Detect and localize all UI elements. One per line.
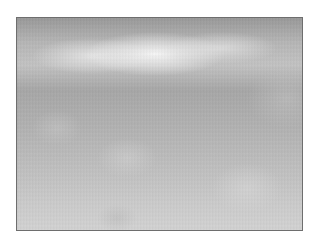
- grayscale-image: [16, 17, 303, 231]
- image-texture: [17, 18, 302, 230]
